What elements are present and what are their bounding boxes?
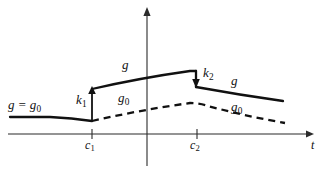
axis-label-t: t — [311, 139, 314, 151]
label-k2-sub: 2 — [209, 72, 214, 82]
label-g0-right-base: g — [231, 99, 238, 114]
curve-g-segment-left — [10, 117, 92, 121]
label-g-middle-base: g — [122, 57, 129, 72]
label-g0-right: g0 — [231, 100, 242, 116]
figure-canvas — [0, 0, 325, 171]
y-axis-arrowhead — [143, 7, 150, 16]
curve-g-segment-right — [196, 87, 283, 101]
jump-arrowhead-k1 — [88, 86, 96, 94]
label-k1-base: k — [76, 92, 82, 107]
label-k1: k1 — [76, 93, 87, 109]
curve-g-segment-middle — [92, 71, 196, 89]
label-baseline-left: g = g0 — [8, 98, 41, 114]
label-k2-base: k — [203, 65, 209, 80]
label-k2: k2 — [203, 66, 214, 82]
tick-label-c1-sub: 1 — [90, 143, 95, 153]
label-baseline-left-sub: 0 — [36, 104, 41, 114]
label-g-right-base: g — [231, 73, 238, 88]
label-g-right: g — [231, 74, 238, 87]
label-g0-right-sub: 0 — [238, 106, 243, 116]
tick-label-c2-sub: 2 — [195, 143, 200, 153]
label-k1-sub: 1 — [82, 99, 87, 109]
axis-label-t-base: t — [311, 138, 314, 152]
label-g0-middle-sub: 0 — [125, 97, 130, 107]
tick-label-c2: c2 — [190, 139, 200, 153]
label-g0-middle-base: g — [118, 90, 125, 105]
x-axis-arrowhead — [306, 130, 314, 137]
label-g-middle: g — [122, 58, 129, 71]
label-baseline-left-text: g = g — [8, 97, 36, 112]
figure-container: g = g0 k1 g g0 k2 g g0 c1 c2 t — [0, 0, 325, 171]
tick-label-c1: c1 — [85, 139, 95, 153]
label-g0-middle: g0 — [118, 91, 129, 107]
